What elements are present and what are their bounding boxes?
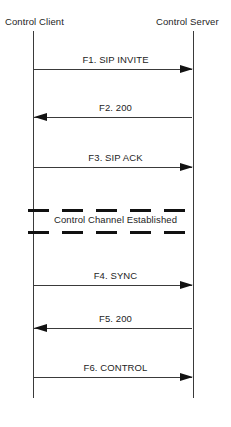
message-line-f1 (34, 69, 192, 70)
participant-label-control-server: Control Server (156, 16, 219, 28)
message-label-f3: F3. SIP ACK (0, 152, 231, 163)
arrow-head-right-icon (180, 163, 193, 171)
participant-label-control-client: Control Client (5, 16, 64, 28)
message-line-f6 (34, 377, 192, 378)
message-line-f5 (34, 328, 192, 329)
message-label-f6: F6. CONTROL (0, 362, 231, 373)
sequence-diagram: Control Client Control Server F1. SIP IN… (0, 0, 231, 427)
message-line-f4 (34, 285, 192, 286)
message-label-f4: F4. SYNC (0, 270, 231, 281)
message-line-f2 (34, 117, 192, 118)
message-label-f1: F1. SIP INVITE (0, 54, 231, 65)
arrow-head-right-icon (180, 281, 193, 289)
note-control-channel-established: Control Channel Established (0, 214, 231, 226)
arrow-head-left-icon (34, 113, 47, 121)
message-line-f3 (34, 167, 192, 168)
control-channel-divider-top (28, 209, 198, 212)
control-channel-divider-bottom (28, 231, 198, 234)
arrow-head-left-icon (34, 324, 47, 332)
arrow-head-right-icon (180, 65, 193, 73)
message-label-f5: F5. 200 (0, 313, 231, 324)
arrow-head-right-icon (180, 373, 193, 381)
message-label-f2: F2. 200 (0, 102, 231, 113)
